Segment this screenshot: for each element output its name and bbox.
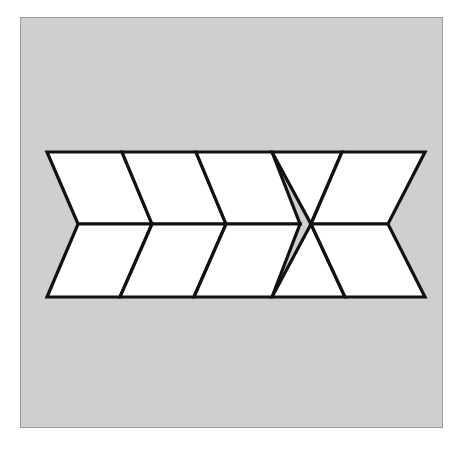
tessellation-cells-group <box>47 152 425 297</box>
figure-caption <box>0 432 459 458</box>
tessellation-figure <box>0 0 459 458</box>
figure-page <box>0 0 459 458</box>
